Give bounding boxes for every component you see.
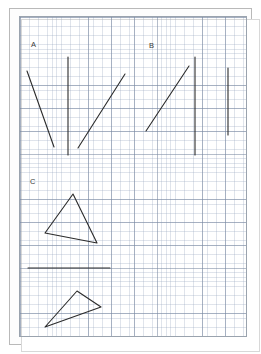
section-label-a: A [31,41,37,49]
section-label-b: B [149,42,155,50]
graph-paper-grid [19,16,247,337]
worksheet-page: A B C [0,0,261,354]
section-label-c: C [30,178,36,186]
